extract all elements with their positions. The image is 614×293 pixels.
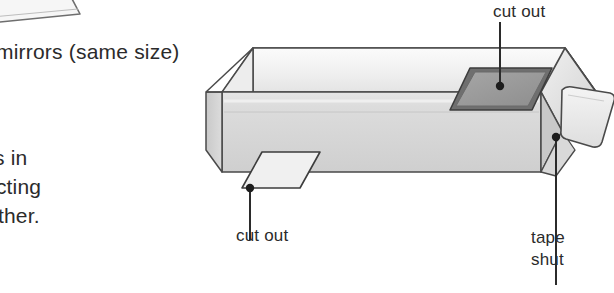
label-tape-shut-line-2: shut xyxy=(531,250,564,270)
description-line-1: s in xyxy=(0,146,27,170)
description-line-3: other. xyxy=(0,204,40,228)
tape-flap xyxy=(561,87,614,147)
label-cut-out-top: cut out xyxy=(493,2,545,22)
label-tape-shut-line-1: tape xyxy=(531,228,565,248)
box-chamfer-facet xyxy=(222,48,253,92)
mirror-corner-fragment xyxy=(0,0,80,26)
label-cut-out-front: cut out xyxy=(236,226,288,246)
box-left-face xyxy=(206,92,222,172)
dot-cut-out-top xyxy=(496,82,504,90)
cardboard-box xyxy=(206,48,614,188)
description-line-2: ecting xyxy=(0,175,41,199)
mirrors-caption: mirrors (same size) xyxy=(0,40,179,64)
periscope-diagram: mirrors (same size) s in ecting other. c… xyxy=(0,0,614,293)
dot-cut-out-front xyxy=(246,184,254,192)
dot-tape-shut xyxy=(552,133,560,141)
